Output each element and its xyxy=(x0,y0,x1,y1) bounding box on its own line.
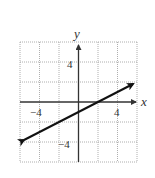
y-axis-label: y xyxy=(72,26,80,41)
x-tick-4: 4 xyxy=(114,106,120,118)
x-tick-neg4: −4 xyxy=(30,106,42,118)
y-tick-4: 4 xyxy=(67,58,73,70)
coordinate-graph: y x 4 −4 −4 4 xyxy=(0,0,155,178)
x-axis-label: x xyxy=(140,94,147,109)
y-tick-neg4: −4 xyxy=(58,138,70,150)
